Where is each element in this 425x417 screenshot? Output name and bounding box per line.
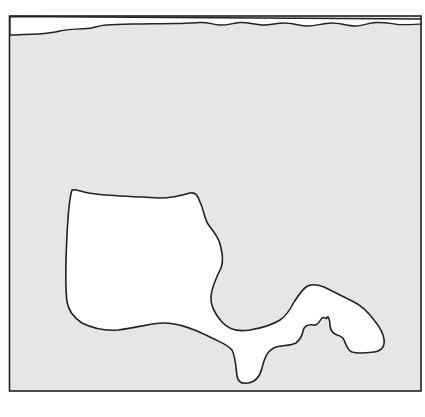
diagram-figure [0,0,425,417]
